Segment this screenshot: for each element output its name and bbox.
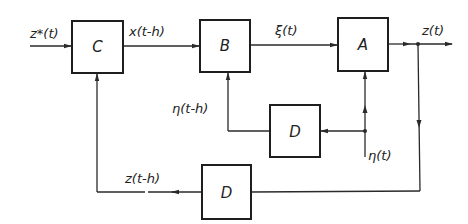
block-a-label: A xyxy=(357,36,368,54)
block-diagram: C B A D D z*(t) x(t-h) ξ(t) z(t) η(t-h) … xyxy=(0,0,468,224)
block-a: A xyxy=(338,18,388,71)
block-b-label: B xyxy=(220,37,230,55)
disturbance-arrow-icon xyxy=(363,105,368,113)
disturbance-label: η(t) xyxy=(368,148,391,163)
feedback-arrow-icon xyxy=(417,120,422,128)
input-signal-label: z*(t) xyxy=(29,26,59,41)
block-d-lower: D xyxy=(202,165,251,219)
block-d-upper: D xyxy=(270,105,320,157)
block-c-label: C xyxy=(92,38,103,56)
block-d-upper-label: D xyxy=(289,123,301,141)
delayed-disturbance-label: η(t-h) xyxy=(172,101,208,116)
b-to-a-signal-label: ξ(t) xyxy=(274,23,298,38)
delayed-output-label: z(t-h) xyxy=(124,171,160,186)
block-d-lower-label: D xyxy=(221,184,233,202)
output-signal-label: z(t) xyxy=(421,23,444,38)
block-b: B xyxy=(200,20,250,72)
c-to-b-signal-label: x(t-h) xyxy=(128,24,165,39)
block-c: C xyxy=(72,21,123,73)
output-feedback-horizontal xyxy=(251,191,420,192)
output-feedback-vertical xyxy=(418,44,420,191)
